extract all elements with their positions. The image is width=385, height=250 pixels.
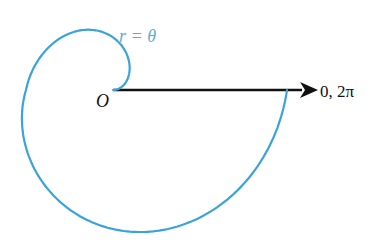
curve-equation-label: r = θ	[119, 27, 156, 45]
polar-axis-label: 0, 2π	[320, 83, 354, 100]
spiral-diagram	[0, 0, 385, 250]
polar-axis-arrowhead-icon	[300, 82, 318, 98]
spiral-curve	[22, 30, 287, 232]
origin-label: O	[96, 92, 109, 110]
